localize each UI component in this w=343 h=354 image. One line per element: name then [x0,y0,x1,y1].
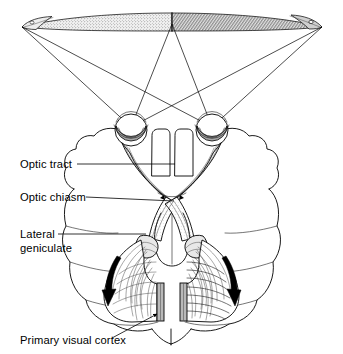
ray-right-eye-to-center-field [172,24,212,127]
left-frontal-lobe [64,128,124,189]
right-eye [195,112,229,146]
right-frontal-lobe [219,128,279,189]
left-occipital-pole [152,329,171,344]
light-rays-group [22,24,322,127]
optic-radiations-group [104,240,239,322]
right-medial-frontal-block [175,129,193,176]
ray-right-eye-to-left-field [22,27,212,127]
left-eye [114,112,148,146]
label-optic-tract: Optic tract [20,158,73,170]
primary-visual-cortex-group [157,283,187,321]
right-mid-temporal-sulcus [225,226,277,233]
ray-right-eye-to-right-field [212,27,322,127]
visual-field-stimulus-bar [22,12,322,32]
right-nerve-fiber-1 [173,145,219,200]
left-nerve-fiber-1 [124,145,170,200]
right-occipital-pole [171,329,191,344]
label-optic-chiasm: Optic chiasm [20,191,86,203]
visual-pathway-figure: Optic tract Optic chiasm Lateral genicul… [0,0,343,354]
left-nerve-fiber-2 [127,146,173,201]
ray-left-eye-to-right-field [131,27,322,127]
diagram-canvas: Optic tract Optic chiasm Lateral genicul… [0,0,343,354]
labels-group: Optic tract Optic chiasm Lateral genicul… [20,158,126,346]
right-nerve-fiber-2 [171,146,217,201]
right-nerve-fiber-3 [169,148,214,202]
label-primary-visual-cortex: Primary visual cortex [20,334,126,346]
left-mid-temporal-sulcus [66,226,118,233]
left-nerve-fiber-3 [129,148,174,202]
visual-field-left-marker [30,21,34,24]
ray-left-eye-to-center-field [131,24,172,127]
eyes-group [114,112,229,146]
label-lateral-geniculate-line-2: geniculate [20,242,72,254]
right-occipital-sulcus-2 [185,322,229,325]
brain-outline-group [63,128,281,345]
lateral-geniculate-group [136,235,208,258]
left-medial-frontal-block [152,129,170,176]
ray-left-eye-to-left-field [22,27,131,127]
label-lateral-geniculate-line-1: Lateral [20,228,55,240]
